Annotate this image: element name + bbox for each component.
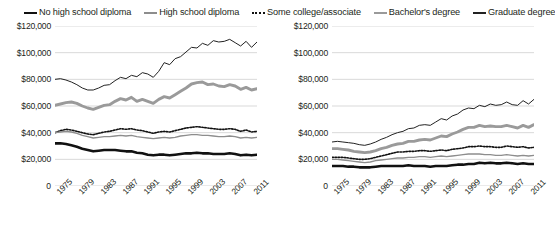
legend-item-graduate-degree: Graduate degree [473, 8, 555, 17]
series-line [332, 154, 534, 163]
legend-swatch-graduate-degree [473, 8, 486, 17]
y-tick-label: $40,000 [298, 128, 328, 137]
legend-item-high-school-diploma: High school diploma [144, 8, 239, 17]
legend-swatch-some-college-associate [252, 8, 265, 17]
y-tick-label: $80,000 [21, 75, 51, 84]
y-zero-label: 0 [323, 182, 328, 191]
plot-area-right [332, 26, 534, 186]
series-lines-left [55, 39, 257, 155]
x-axis-labels-right: 1975197919831987199119951999200320072011 [332, 186, 534, 232]
y-axis-labels-left: $120,000$100,000$80,000$60,000$40,000$20… [0, 26, 53, 186]
series-line [55, 127, 257, 135]
legend-item-bachelors-degree: Bachelor's degree [374, 8, 460, 17]
y-tick-label: $20,000 [298, 155, 328, 164]
series-line [55, 143, 257, 155]
series-line [55, 39, 257, 90]
y-tick-label: $40,000 [21, 128, 51, 137]
plot-svg-right [332, 26, 534, 186]
y-zero-label: 0 [46, 182, 51, 191]
legend-label-bachelors-degree: Bachelor's degree [389, 8, 460, 17]
y-axis-labels-right: $120,000$100,000$80,000$60,000$40,000$20… [277, 26, 330, 186]
series-line [55, 82, 257, 109]
legend-swatch-bachelors-degree [374, 8, 387, 17]
series-line [332, 125, 534, 153]
y-tick-label: $120,000 [17, 22, 51, 31]
chart-legend: No high school diploma High school diplo… [0, 0, 545, 26]
legend-item-some-college-associate: Some college/associate [252, 8, 361, 17]
y-tick-label: $60,000 [298, 102, 328, 111]
y-tick-label: $60,000 [21, 102, 51, 111]
y-tick-label: $100,000 [17, 48, 51, 57]
y-tick-label: $20,000 [21, 155, 51, 164]
legend-swatch-no-high-school-diploma [24, 8, 37, 17]
y-tick-label: $100,000 [294, 48, 328, 57]
legend-label-high-school-diploma: High school diploma [159, 8, 239, 17]
legend-swatch-high-school-diploma [144, 8, 157, 17]
legend-item-no-high-school-diploma: No high school diploma [24, 8, 131, 17]
x-axis-labels-left: 1975197919831987199119951999200320072011 [55, 186, 257, 232]
y-tick-label: $80,000 [298, 75, 328, 84]
chart-right: $120,000$100,000$80,000$60,000$40,000$20… [277, 26, 545, 232]
chart-left: $120,000$100,000$80,000$60,000$40,000$20… [0, 26, 268, 232]
charts-container: $120,000$100,000$80,000$60,000$40,000$20… [0, 26, 545, 232]
series-lines-right [332, 99, 534, 167]
y-tick-label: $120,000 [294, 22, 328, 31]
legend-label-no-high-school-diploma: No high school diploma [39, 8, 131, 17]
series-line [332, 163, 534, 168]
legend-label-graduate-degree: Graduate degree [488, 8, 555, 17]
legend-label-some-college-associate: Some college/associate [267, 8, 361, 17]
plot-area-left [55, 26, 257, 186]
plot-svg-left [55, 26, 257, 186]
